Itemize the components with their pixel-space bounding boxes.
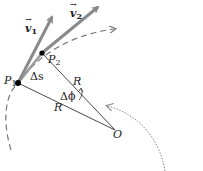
label-p1: P1 [4,75,17,88]
label-delta-s: Δs [30,71,44,82]
label-delta-phi: Δϕ [60,91,75,102]
label-r-lower: R [54,102,62,113]
label-v2: v2 [70,8,82,20]
circular-motion-diagram: v1 v2 P1 P2 Δs R R Δϕ O [0,0,203,171]
point-p2 [39,50,44,55]
label-p2: P2 [48,54,61,67]
label-v1: v1 [25,23,37,35]
label-origin: O [113,129,122,140]
label-r-upper: R [73,76,81,87]
